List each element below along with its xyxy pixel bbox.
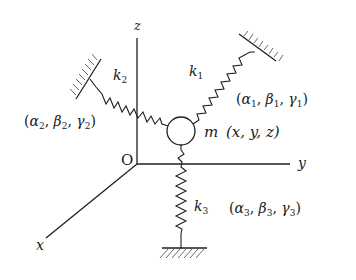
spring-2-wall-hatching	[70, 54, 97, 95]
spring-3-angles: (α3, β3, γ3)	[229, 200, 301, 218]
spring-3-coil	[176, 145, 186, 248]
origin-label: O	[121, 151, 133, 169]
mass-label: m (x, y, z)	[204, 123, 280, 141]
spring-3-stiffness: k3	[194, 198, 208, 216]
spring-1-angles: (α1, β1, γ1)	[236, 91, 308, 109]
spring-2-angles: (α2, β2, γ2)	[24, 113, 96, 131]
x-axis	[46, 164, 137, 238]
spring-1: k1 (α1, β1, γ1)	[189, 31, 308, 124]
mass: m (x, y, z)	[167, 117, 280, 145]
mass-circle	[167, 117, 195, 145]
z-axis-label: z	[133, 18, 141, 33]
ground-hatching	[160, 249, 204, 258]
spring-2-wall	[76, 59, 101, 99]
spring-2-stiffness: k2	[113, 67, 127, 85]
spring-3: k3 (α3, β3, γ3)	[160, 145, 301, 258]
spring-2-coil	[90, 79, 168, 126]
spring-mass-diagram: z y x O m (x, y, z) k1 (α1, β1, γ1)	[0, 0, 356, 280]
spring-1-wall-hatching	[244, 31, 283, 61]
spring-2: k2 (α2, β2, γ2)	[24, 54, 168, 131]
x-axis-label: x	[36, 237, 44, 253]
y-axis-label: y	[297, 155, 307, 171]
spring-1-stiffness: k1	[189, 63, 203, 81]
spring-1-coil	[193, 52, 255, 124]
